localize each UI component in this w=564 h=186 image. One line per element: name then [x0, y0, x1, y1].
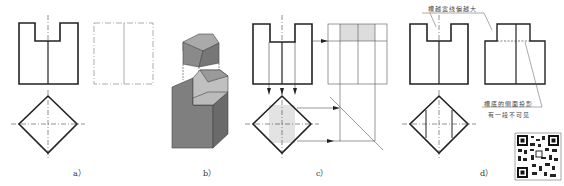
figure-label-b: b） [203, 167, 216, 178]
technical-drawing [0, 0, 564, 186]
annotation-slot-bottom-line2: 有一段不可见 [488, 110, 530, 119]
figure-b [172, 34, 228, 148]
figure-a [11, 15, 153, 159]
figure-label-c: c） [316, 167, 328, 178]
figure-label-d: d） [480, 167, 493, 178]
figure-c [245, 15, 387, 160]
side-view-outline [94, 23, 153, 84]
qr-code [515, 133, 561, 180]
figure-label-a: a） [73, 167, 86, 178]
annotation-slot-width: 槽越宽线偏越大 [428, 4, 477, 13]
annotation-slot-bottom-line1: 槽底的侧面投影 [484, 99, 533, 108]
